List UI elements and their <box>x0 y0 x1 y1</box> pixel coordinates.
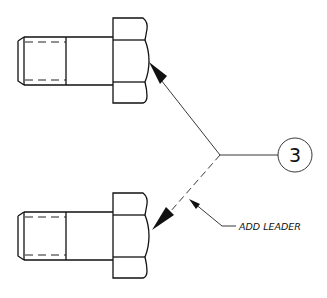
arrowhead-icon <box>149 62 167 84</box>
arrowhead-icon <box>189 199 200 209</box>
balloon-label: 3 <box>289 144 301 166</box>
top-bolt <box>18 18 149 103</box>
arrowhead-icon <box>152 207 174 230</box>
annotation-text: ADD LEADER <box>238 221 301 232</box>
drawing-canvas: 3 ADD LEADER <box>0 0 327 298</box>
leader-bottom-dashed <box>152 155 220 230</box>
bottom-bolt <box>18 193 149 278</box>
add-leader-annotation: ADD LEADER <box>189 199 301 232</box>
leader-top <box>149 62 220 155</box>
item-balloon: 3 <box>278 138 312 172</box>
